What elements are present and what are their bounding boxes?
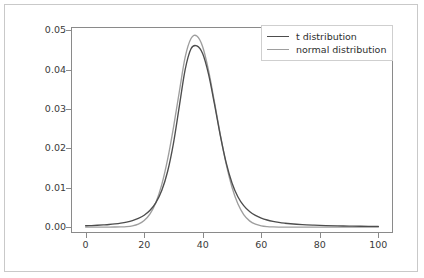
series-line-normal-distribution [86,35,379,227]
legend-swatch-normal-distribution [267,49,289,50]
legend-entry-normal-distribution: normal distribution [267,43,386,56]
legend-entry-t-distribution: t distribution [267,30,386,43]
y-tick-mark [66,188,71,189]
x-tick-mark [203,233,204,238]
x-tick-label: 100 [358,239,398,250]
y-tick-label: 0.02 [32,143,66,153]
y-tick-mark [66,227,71,228]
legend-label-t-distribution: t distribution [296,31,357,43]
x-tick-mark [261,233,262,238]
y-tick-label: 0.03 [32,104,66,114]
x-tick-mark [378,233,379,238]
x-tick-mark [144,233,145,238]
x-tick-label: 80 [300,239,340,250]
chart-figure: 0.000.010.020.030.040.05 020406080100 t … [0,0,424,278]
y-tick-mark [66,30,71,31]
y-tick-mark [66,148,71,149]
y-axis-tick-labels: 0.000.010.020.030.040.05 [28,0,66,278]
legend-label-normal-distribution: normal distribution [296,44,386,56]
x-tick-mark [86,233,87,238]
legend-swatch-t-distribution [267,36,289,37]
y-tick-label: 0.04 [32,65,66,75]
series-line-t-distribution [86,45,379,226]
y-tick-mark [66,109,71,110]
y-tick-label: 0.01 [32,183,66,193]
y-tick-label: 0.00 [32,222,66,232]
x-tick-mark [320,233,321,238]
x-tick-label: 60 [241,239,281,250]
chart-legend: t distribution normal distribution [261,25,393,61]
y-tick-mark [66,70,71,71]
y-tick-label: 0.05 [32,25,66,35]
x-tick-label: 20 [124,239,164,250]
x-tick-label: 0 [66,239,106,250]
x-tick-label: 40 [183,239,223,250]
